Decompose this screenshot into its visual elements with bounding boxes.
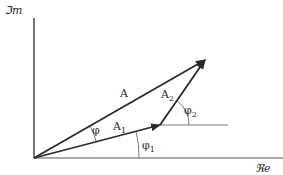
label-a: A: [119, 87, 129, 100]
label-phi1: φ1: [142, 139, 155, 154]
label-a2-sub: 2: [169, 94, 174, 103]
vector-a: [34, 60, 205, 158]
real-axis-label: ℜe: [255, 162, 271, 175]
phasor-diagram: ℑm ℜe A A2 A1 φ φ1 φ2: [0, 0, 283, 175]
imaginary-axis-label: ℑm: [4, 4, 22, 17]
label-phi1-sub: 1: [150, 145, 155, 154]
label-a1-sub: 1: [121, 126, 126, 135]
label-phi2: φ2: [184, 104, 197, 119]
label-phi: φ: [92, 124, 100, 137]
label-phi2-sub: 2: [192, 110, 197, 119]
label-a2: A2: [160, 88, 174, 103]
angle-arc-phi1: [136, 131, 139, 158]
label-a1: A1: [112, 120, 126, 135]
